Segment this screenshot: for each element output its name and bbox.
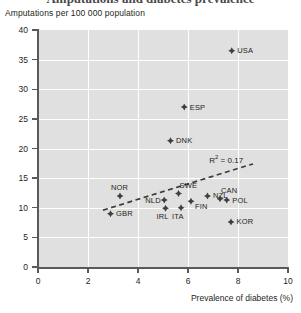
y-tick	[32, 29, 37, 30]
data-point-label-dnk: DNK	[176, 136, 192, 145]
data-point-label-nld: NLD	[145, 196, 160, 205]
gridline-vertical	[88, 30, 89, 267]
y-tick	[32, 59, 37, 60]
gridline-horizontal	[38, 237, 288, 238]
plot-area	[38, 30, 288, 267]
y-tick-label: 5	[2, 232, 28, 242]
x-tick-label: 2	[77, 276, 99, 286]
gridline-horizontal	[38, 149, 288, 150]
x-tick	[37, 268, 38, 273]
x-tick-label: 6	[177, 276, 199, 286]
data-point-label-fin: FIN	[195, 202, 208, 211]
x-tick-label: 10	[277, 276, 299, 286]
y-axis-line	[37, 29, 39, 268]
gridline-horizontal	[38, 89, 288, 90]
x-axis-title: Prevalence of diabetes (%)	[191, 293, 293, 303]
y-tick	[32, 118, 37, 119]
gridline-vertical	[288, 30, 289, 267]
gridline-horizontal	[38, 178, 288, 179]
data-point-label-can: CAN	[221, 186, 237, 195]
y-tick	[32, 207, 37, 208]
y-tick-label: 25	[2, 114, 28, 124]
y-tick-label: 40	[2, 25, 28, 35]
data-point-label-pol: POL	[232, 196, 247, 205]
data-point-label-esp: ESP	[190, 103, 205, 112]
data-point-label-swe: SWE	[180, 181, 198, 190]
x-tick	[137, 268, 138, 273]
data-point-label-kor: KOR	[237, 217, 254, 226]
chart-title-text: Amputations and diabetes prevalence	[0, 0, 301, 5]
x-tick	[237, 268, 238, 273]
y-tick-label: 30	[2, 84, 28, 94]
y-tick-label: 35	[2, 55, 28, 65]
gridline-vertical	[138, 30, 139, 267]
data-point-label-irl: IRL	[157, 212, 169, 221]
x-tick	[87, 268, 88, 273]
y-tick-label: 0	[2, 262, 28, 272]
y-tick-label: 20	[2, 144, 28, 154]
gridline-vertical	[188, 30, 189, 267]
y-axis-title: Amputations per 100 000 population	[5, 8, 145, 18]
gridline-vertical	[238, 30, 239, 267]
y-tick-label: 10	[2, 203, 28, 213]
x-tick-label: 8	[227, 276, 249, 286]
x-tick-label: 0	[27, 276, 49, 286]
data-point-label-ita: ITA	[172, 212, 184, 221]
x-tick	[187, 268, 188, 273]
y-tick	[32, 266, 37, 267]
gridline-horizontal	[38, 60, 288, 61]
x-axis-line	[37, 267, 289, 269]
gridline-horizontal	[38, 119, 288, 120]
y-tick	[32, 89, 37, 90]
data-point-label-nor: NOR	[111, 183, 128, 192]
chart-title-clipped: Amputations and diabetes prevalence	[0, 0, 301, 6]
x-tick-label: 4	[127, 276, 149, 286]
y-tick	[32, 148, 37, 149]
r-squared-annotation: R2 = 0.17	[209, 154, 243, 165]
y-tick	[32, 237, 37, 238]
data-point-label-gbr: GBR	[116, 209, 133, 218]
y-tick-label: 15	[2, 173, 28, 183]
y-tick	[32, 177, 37, 178]
x-tick	[287, 268, 288, 273]
chart-root: Amputations and diabetes prevalence Ampu…	[0, 0, 301, 313]
data-point-label-usa: USA	[237, 46, 253, 55]
